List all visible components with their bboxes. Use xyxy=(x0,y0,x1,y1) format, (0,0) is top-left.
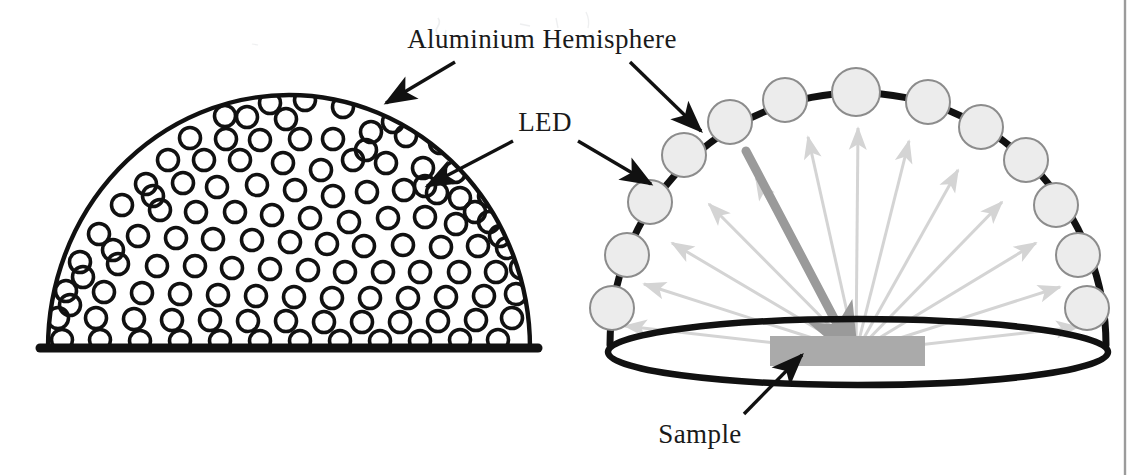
led-sphere xyxy=(1065,286,1109,330)
led-sphere xyxy=(628,180,672,224)
sample-label: Sample xyxy=(658,419,741,449)
led-sphere xyxy=(1034,183,1078,227)
led-sphere xyxy=(906,80,950,124)
led-sphere xyxy=(590,286,634,330)
led-label: LED xyxy=(518,107,572,137)
led-sphere xyxy=(708,100,752,144)
led-sphere xyxy=(1056,233,1100,277)
led-sphere xyxy=(605,233,649,277)
led-sphere xyxy=(1004,138,1048,182)
hemisphere-label: Aluminium Hemisphere xyxy=(407,24,677,54)
figure-canvas: Aluminium Hemisphere LED Sample xyxy=(0,0,1138,475)
led-sphere xyxy=(763,78,807,122)
led-sphere xyxy=(959,105,1003,149)
led-sphere xyxy=(832,68,880,116)
hemisphere-illumination-diagram: Aluminium Hemisphere LED Sample xyxy=(0,0,1138,475)
led-sphere xyxy=(662,133,706,177)
